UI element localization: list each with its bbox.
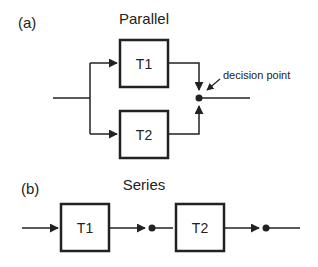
task-t2-label: T2 bbox=[136, 127, 153, 143]
task-t1-label: T1 bbox=[136, 56, 153, 72]
panel-parallel: (a) Parallel T1 T2 decision point bbox=[18, 10, 290, 158]
parallel-title: Parallel bbox=[119, 10, 169, 27]
t1-output-arrow bbox=[168, 63, 199, 90]
panel-series: (b) Series T1 T2 bbox=[21, 176, 300, 251]
series-t1-label: T1 bbox=[77, 220, 94, 236]
decision-point-annotation: decision point bbox=[223, 69, 290, 81]
series-t2-label: T2 bbox=[192, 220, 209, 236]
diagram-canvas: (a) Parallel T1 T2 decision point (b) Se… bbox=[0, 0, 318, 267]
panel-b-label: (b) bbox=[21, 180, 39, 197]
panel-a-label: (a) bbox=[18, 14, 36, 31]
annotation-arrow bbox=[207, 79, 220, 90]
series-title: Series bbox=[123, 176, 166, 193]
t2-output-arrow bbox=[168, 106, 199, 134]
